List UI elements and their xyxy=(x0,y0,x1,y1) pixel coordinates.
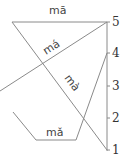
level-4-label: 4 xyxy=(112,46,120,60)
tone-1-label: mā xyxy=(49,4,66,17)
tone-2-contour xyxy=(0,22,107,91)
tone-4-label: mà xyxy=(62,72,83,94)
level-5-label: 5 xyxy=(112,15,120,29)
tone-diagram: 5 4 3 2 1 mā má mà mǎ xyxy=(0,0,130,155)
tone-3-label: mǎ xyxy=(46,126,63,139)
level-3-label: 3 xyxy=(112,79,120,93)
tone-2-label: má xyxy=(41,37,63,57)
level-2-label: 2 xyxy=(112,111,120,125)
level-1-label: 1 xyxy=(112,143,120,155)
